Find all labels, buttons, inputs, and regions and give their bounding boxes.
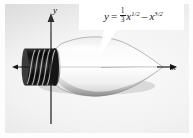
x-axis-label: x: [172, 63, 176, 72]
equation-minus: –: [140, 10, 150, 22]
equation-equals: =: [109, 10, 119, 22]
figure-container: y = 1 3 x1/2 – x3/2 y x: [0, 0, 193, 138]
equation-fraction: 1 3: [120, 7, 126, 23]
callout-leader-line: [97, 30, 117, 60]
term1-exponent: 1/2: [131, 11, 140, 18]
y-axis-label: y: [53, 6, 57, 15]
term2-exponent: 3/2: [154, 11, 163, 18]
equation-text: y = 1 3 x1/2 – x3/2: [86, 5, 181, 26]
fraction-numerator: 1: [120, 7, 126, 15]
fraction-denominator: 3: [120, 15, 126, 24]
